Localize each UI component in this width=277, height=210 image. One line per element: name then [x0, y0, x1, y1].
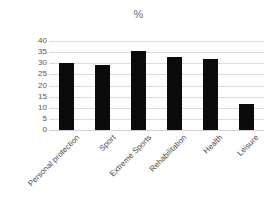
- gridline: [49, 74, 264, 75]
- y-axis-tick-label: 0: [26, 126, 47, 134]
- gridline: [49, 108, 264, 109]
- gridline: [49, 63, 264, 64]
- x-axis: Personal protectionSportExtreme SportsRe…: [49, 131, 264, 210]
- gridline: [49, 52, 264, 53]
- gridline: [49, 119, 264, 120]
- chart-title: %: [0, 8, 277, 20]
- bar: [167, 57, 182, 130]
- gridline: [49, 97, 264, 98]
- y-axis-tick-label: 30: [26, 59, 47, 67]
- bar: [203, 59, 218, 130]
- gridline: [49, 86, 264, 87]
- x-axis-tick-label: Personal protection: [0, 133, 81, 210]
- bar: [59, 63, 74, 130]
- bar: [239, 104, 254, 130]
- y-axis-tick-label: 40: [26, 37, 47, 45]
- y-axis-tick-label: 20: [26, 82, 47, 90]
- y-axis: 0510152025303540: [26, 41, 47, 130]
- y-axis-tick-label: 5: [26, 115, 47, 123]
- y-axis-tick-label: 10: [26, 104, 47, 112]
- bar: [131, 51, 146, 130]
- y-axis-tick-label: 15: [26, 93, 47, 101]
- bar: [95, 65, 110, 130]
- bar-chart-figure: % 0510152025303540 Personal protectionSp…: [0, 0, 277, 210]
- y-axis-tick-label: 25: [26, 70, 47, 78]
- gridline: [49, 41, 264, 42]
- plot-area: [49, 41, 264, 130]
- y-axis-tick-label: 35: [26, 48, 47, 56]
